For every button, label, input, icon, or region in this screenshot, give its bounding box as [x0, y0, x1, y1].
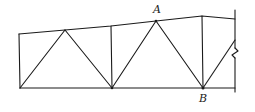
diagonal-2: [65, 30, 112, 88]
diagonal-to-wall: [203, 40, 235, 88]
wall-support: [232, 10, 238, 92]
middle-vertical: [111, 26, 112, 88]
joint-b: [202, 87, 205, 90]
left-end-vertical: [19, 34, 20, 88]
diagonal-4: [156, 21, 203, 88]
right-vertical: [202, 16, 203, 88]
diagonal-1: [20, 30, 65, 88]
truss-diagram: A B: [0, 0, 255, 112]
break-symbol-icon: [232, 48, 238, 58]
label-a: A: [152, 3, 161, 16]
joint-mid-bottom: [111, 87, 114, 90]
label-b: B: [198, 92, 207, 105]
joint-a: [155, 20, 158, 23]
diagonal-3: [112, 21, 156, 88]
